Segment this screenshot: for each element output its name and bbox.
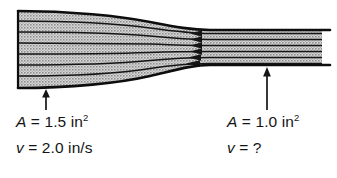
inlet-velocity-symbol: v (16, 139, 24, 156)
outlet-area-value: 1.0 (255, 113, 277, 130)
inlet-area-value: 1.5 (44, 113, 66, 130)
pipe-fill (18, 11, 322, 88)
outlet-velocity-label: v = ? (227, 139, 262, 157)
pipe-body (18, 11, 322, 88)
inlet-area-equals: = (26, 113, 44, 130)
outlet-velocity-symbol: v (227, 139, 235, 156)
inlet-velocity-unit: in/s (68, 139, 93, 156)
inlet-velocity-equals: = (24, 139, 42, 156)
inlet-area-label: A = 1.5 in2 (16, 113, 88, 131)
inlet-area-unit: in (71, 113, 83, 130)
inlet-velocity-value: 2.0 (42, 139, 64, 156)
outlet-pointer-head (263, 67, 271, 77)
inlet-pointer-arrow (42, 89, 50, 110)
outlet-velocity-value: ? (253, 139, 262, 156)
inlet-area-symbol: A (16, 113, 26, 130)
outlet-area-unit: in (282, 113, 294, 130)
inlet-pointer-head (42, 89, 50, 98)
outlet-area-label: A = 1.0 in2 (227, 113, 299, 131)
inlet-velocity-label: v = 2.0 in/s (16, 139, 93, 157)
outlet-area-equals: = (237, 113, 255, 130)
outlet-area-exponent: 2 (294, 112, 299, 123)
inlet-area-exponent: 2 (83, 112, 88, 123)
outlet-pointer-arrow (263, 67, 271, 110)
outlet-velocity-equals: = (235, 139, 253, 156)
outlet-area-symbol: A (227, 113, 237, 130)
